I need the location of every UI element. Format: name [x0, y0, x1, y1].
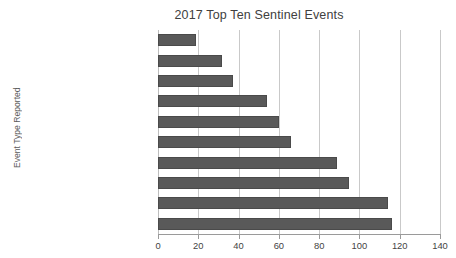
x-tick-100: [359, 234, 360, 239]
x-tick-label-100: 100: [352, 240, 368, 251]
x-tick-120: [400, 234, 401, 239]
x-tick-label-140: 140: [432, 240, 448, 251]
plot-area: [158, 30, 440, 234]
chart-title: 2017 Top Ten Sentinel Events: [0, 8, 456, 22]
x-tick-label-80: 80: [314, 240, 324, 251]
x-tick-label-60: 60: [274, 240, 284, 251]
gridline-x-140: [440, 30, 441, 234]
gridline-x-120: [400, 30, 401, 234]
x-axis-line: [158, 234, 441, 235]
bar: [158, 95, 267, 107]
x-tick-label-120: 120: [392, 240, 408, 251]
bar: [158, 55, 222, 67]
bar: [158, 75, 233, 87]
x-tick-label-20: 20: [193, 240, 203, 251]
x-tick-60: [279, 234, 280, 239]
bar: [158, 136, 291, 148]
x-tick-20: [198, 234, 199, 239]
y-axis-title: Event Type Reported: [10, 58, 24, 198]
x-tick-label-40: 40: [233, 240, 243, 251]
bar: [158, 197, 388, 209]
bar: [158, 157, 337, 169]
bar: [158, 34, 196, 46]
x-tick-140: [440, 234, 441, 239]
bar-chart-figure: 2017 Top Ten Sentinel Events Event Type …: [0, 0, 456, 258]
x-tick-label-0: 0: [155, 240, 160, 251]
x-tick-40: [239, 234, 240, 239]
bar: [158, 116, 279, 128]
bar: [158, 177, 349, 189]
x-tick-0: [158, 234, 159, 239]
bar: [158, 218, 392, 230]
x-tick-80: [319, 234, 320, 239]
